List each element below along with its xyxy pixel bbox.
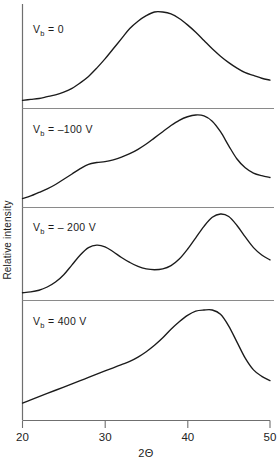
panel-label-3-rest: = 400 V (45, 315, 87, 327)
x-axis-ticks (23, 421, 271, 429)
x-tick-label-3: 50 (264, 431, 277, 443)
panel-label-0-symbol: V (33, 23, 40, 35)
panel-label-3-symbol: V (33, 315, 40, 327)
panel-label-2: Vb = – 200 V (33, 221, 96, 236)
panel-label-2-symbol: V (33, 221, 40, 233)
x-tick-label-1: 30 (99, 431, 112, 443)
xrd-figure: 20 30 40 50 2Θ Relative intensity Vb = 0… (0, 0, 279, 458)
panel-label-2-rest: = – 200 V (45, 221, 96, 233)
panel-label-0-rest: = 0 (45, 23, 64, 35)
panel-label-0: Vb = 0 (33, 23, 64, 38)
y-axis-title: Relative intensity (2, 200, 13, 279)
svg-text:Vb = –100 V: Vb = –100 V (33, 123, 93, 138)
chart-svg: 20 30 40 50 2Θ Relative intensity Vb = 0… (0, 0, 279, 458)
x-axis-title: 2Θ (138, 447, 154, 458)
panel-label-3: Vb = 400 V (33, 315, 87, 330)
panel-label-1: Vb = –100 V (33, 123, 93, 138)
panel-label-1-rest: = –100 V (45, 123, 93, 135)
x-tick-label-2: 40 (181, 431, 194, 443)
svg-text:Vb = 400 V: Vb = 400 V (33, 315, 87, 330)
svg-text:Vb = – 200 V: Vb = – 200 V (33, 221, 96, 236)
svg-text:Vb = 0: Vb = 0 (33, 23, 64, 38)
panel-label-1-symbol: V (33, 123, 40, 135)
x-tick-label-0: 20 (16, 431, 29, 443)
